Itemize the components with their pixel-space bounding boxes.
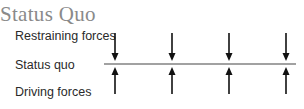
driving-force-arrow-head — [226, 67, 233, 75]
driving-force-arrow — [283, 67, 290, 94]
driving-force-arrow — [112, 67, 119, 94]
restraining-force-arrow — [283, 33, 290, 61]
restraining-force-arrow — [169, 33, 176, 61]
driving-force-arrow — [226, 67, 233, 94]
restraining-force-arrow — [112, 33, 119, 61]
restraining-force-arrow-head — [112, 53, 119, 61]
driving-force-arrow — [169, 67, 176, 94]
driving-force-arrow-head — [283, 67, 290, 75]
restraining-force-arrow-head — [169, 53, 176, 61]
driving-force-arrow-head — [112, 67, 119, 75]
restraining-force-arrow-head — [226, 53, 233, 61]
restraining-force-arrow-head — [283, 53, 290, 61]
restraining-force-arrow — [226, 33, 233, 61]
driving-force-arrow-head — [169, 67, 176, 75]
force-field-diagram — [0, 0, 304, 109]
